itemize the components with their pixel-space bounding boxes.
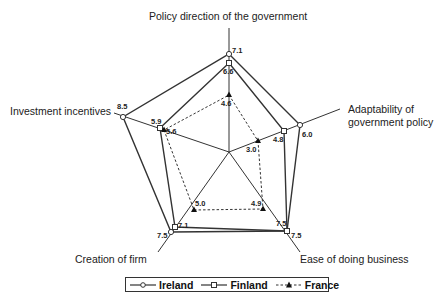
series-finland bbox=[158, 61, 290, 234]
svg-text:7.5: 7.5 bbox=[276, 219, 286, 228]
legend-item-ireland: Ireland bbox=[130, 279, 193, 291]
svg-text:7.1: 7.1 bbox=[178, 221, 188, 230]
legend-label-ireland: Ireland bbox=[159, 279, 193, 291]
axis-label-investment-incentives: Investment incentives bbox=[10, 105, 111, 118]
radar-chart: 7.1 6.6 4.6 6.0 4.8 3.0 7.5 7.5 4.9 7.5 … bbox=[0, 0, 445, 294]
svg-text:7.5: 7.5 bbox=[157, 231, 167, 240]
circle-marker-icon bbox=[130, 281, 156, 289]
svg-text:8.5: 8.5 bbox=[117, 102, 127, 111]
svg-text:5.0: 5.0 bbox=[195, 199, 205, 208]
axis-label-adaptability: Adaptability of government policy bbox=[348, 103, 433, 129]
svg-text:4.8: 4.8 bbox=[273, 135, 283, 144]
legend-label-france: France bbox=[305, 279, 339, 291]
axis-label-policy-direction: Policy direction of the government bbox=[149, 10, 307, 23]
svg-text:6.6: 6.6 bbox=[223, 67, 233, 76]
value-labels: 7.1 6.6 4.6 6.0 4.8 3.0 7.5 7.5 4.9 7.5 … bbox=[117, 46, 312, 240]
legend-item-finland: Finland bbox=[201, 279, 267, 291]
axis-label-adaptability-line1: Adaptability of bbox=[348, 103, 433, 116]
axis-label-adaptability-line2: government policy bbox=[348, 116, 433, 129]
axis-label-creation-of-firm: Creation of firm bbox=[75, 253, 147, 266]
svg-text:7.1: 7.1 bbox=[232, 46, 242, 55]
svg-text:4.9: 4.9 bbox=[251, 199, 261, 208]
svg-text:5.9: 5.9 bbox=[151, 117, 161, 126]
svg-text:3.0: 3.0 bbox=[246, 145, 256, 154]
square-marker-icon bbox=[201, 281, 227, 289]
legend-label-finland: Finland bbox=[230, 279, 267, 291]
axis-label-ease-of-business: Ease of doing business bbox=[300, 253, 409, 266]
svg-text:7.5: 7.5 bbox=[291, 231, 301, 240]
triangle-marker-icon bbox=[276, 281, 302, 289]
svg-text:6.0: 6.0 bbox=[302, 130, 312, 139]
svg-text:5.6: 5.6 bbox=[166, 127, 176, 136]
legend-item-france: France bbox=[276, 279, 339, 291]
legend: Ireland Finland France bbox=[125, 277, 329, 292]
svg-text:4.6: 4.6 bbox=[221, 99, 231, 108]
